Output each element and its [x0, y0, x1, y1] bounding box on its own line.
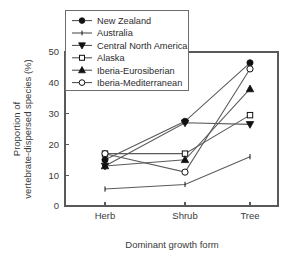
series-line	[105, 157, 250, 189]
y-tick-label: 20	[48, 139, 59, 150]
legend-label: Central North America	[97, 41, 188, 51]
series-australia	[105, 154, 250, 192]
x-tick-label: Herb	[95, 210, 116, 221]
x-axis-title: Dominant growth form	[125, 239, 219, 250]
data-point	[247, 66, 253, 72]
legend-label: New Zealand	[97, 16, 151, 26]
data-point	[102, 151, 108, 157]
y-tick-label: 40	[48, 77, 59, 88]
data-point	[246, 85, 253, 92]
data-point	[246, 122, 253, 129]
legend-label: Iberia-Eurosiberian	[97, 66, 175, 76]
legend-marker	[80, 55, 85, 60]
data-point	[247, 60, 253, 66]
legend-label: Australia	[97, 28, 134, 38]
y-tick-label: 50	[48, 46, 59, 57]
y-axis-title-line-1: Proportion of	[11, 101, 22, 156]
series-line	[105, 123, 250, 166]
legend-marker	[79, 18, 85, 24]
y-tick-label: 30	[48, 108, 59, 119]
line-chart: 01020304050 HerbShrubTree Dominant growt…	[0, 0, 296, 257]
x-tick-label: Shrub	[172, 210, 197, 221]
data-point	[247, 112, 252, 117]
chart-legend: New ZealandAustraliaCentral North Americ…	[65, 10, 188, 90]
chart-figure: 01020304050 HerbShrubTree Dominant growt…	[0, 0, 296, 257]
series-line	[105, 115, 250, 154]
legend-marker	[79, 80, 85, 86]
legend-label: Alaska	[97, 53, 125, 63]
y-tick-label: 10	[48, 170, 59, 181]
x-tick-label: Tree	[240, 210, 259, 221]
x-axis-ticks: HerbShrubTree	[95, 202, 260, 221]
y-axis-title-line-2: vertebrate-dispersed species (%)	[22, 59, 33, 198]
legend-label: Iberia-Mediterranean	[97, 78, 182, 88]
y-tick-label: 0	[54, 200, 59, 211]
series-central-north-america	[101, 120, 253, 170]
data-point	[182, 169, 188, 175]
